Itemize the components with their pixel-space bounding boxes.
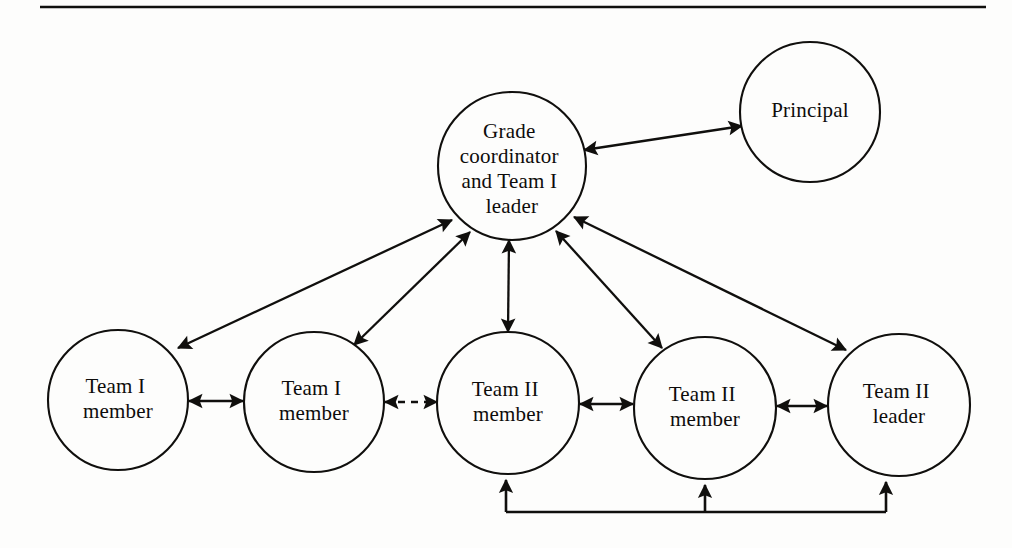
- node-principal-label: Principal: [771, 98, 849, 122]
- diagram-canvas: Grade coordinator and Team I leader Prin…: [0, 0, 1012, 548]
- team-ii-bottom-bracket: [506, 480, 886, 512]
- edge-coordinator-team-ii-member-1: [508, 240, 509, 332]
- edge-coordinator-principal: [584, 126, 742, 150]
- diagram-page: Grade coordinator and Team I leader Prin…: [0, 0, 1012, 548]
- node-team-i-member-1[interactable]: Team I member: [48, 330, 188, 470]
- node-principal[interactable]: Principal: [740, 42, 880, 182]
- node-team-ii-member-2-label: Team II member: [669, 382, 741, 431]
- node-team-ii-leader-label: Team II leader: [863, 379, 935, 428]
- node-team-i-member-2[interactable]: Team I member: [244, 332, 384, 472]
- node-grade-coordinator[interactable]: Grade coordinator and Team I leader: [438, 92, 586, 240]
- node-team-ii-leader[interactable]: Team II leader: [828, 334, 970, 476]
- edge-coordinator-team-ii-leader: [574, 217, 846, 350]
- edge-coordinator-team-ii-member-2: [556, 231, 662, 348]
- node-team-ii-member-2[interactable]: Team II member: [634, 337, 776, 479]
- node-team-ii-member-1[interactable]: Team II member: [437, 332, 579, 474]
- node-team-ii-member-1-label: Team II member: [472, 377, 544, 426]
- edge-coordinator-team-i-member-1: [178, 220, 452, 348]
- node-team-i-member-1-label: Team I member: [83, 374, 153, 423]
- node-team-i-member-2-label: Team I member: [279, 376, 349, 425]
- edge-coordinator-team-i-member-2: [354, 232, 470, 345]
